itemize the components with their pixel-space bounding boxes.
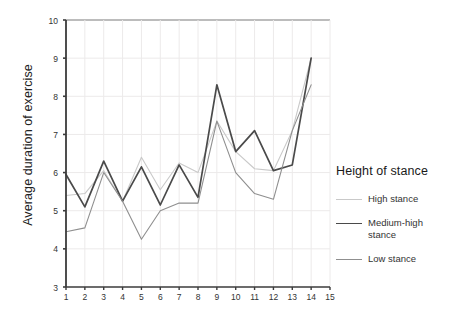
x-axis-tick-label: 2: [82, 292, 87, 302]
x-axis-tick-label: 9: [214, 292, 219, 302]
y-axis-tick-label: 3: [53, 283, 58, 293]
legend-title: Height of stance: [336, 165, 448, 179]
y-axis-title: Average duration of exercise: [21, 64, 35, 226]
x-axis-tick-label: 10: [231, 292, 241, 302]
x-axis-tick-label: 12: [269, 292, 279, 302]
x-axis-tick-label: 15: [325, 292, 335, 302]
x-axis-tick-label: 6: [158, 292, 163, 302]
y-axis-tick-label: 4: [53, 244, 58, 254]
legend-item[interactable]: High stance: [336, 193, 448, 206]
y-axis-tick-label: 9: [53, 54, 58, 64]
legend-line-swatch: [336, 199, 362, 200]
x-axis-tick-label: 5: [139, 292, 144, 302]
x-axis-tick-label: 1: [64, 292, 69, 302]
legend-item-label: High stance: [368, 193, 418, 206]
x-axis-tick-label: 7: [177, 292, 182, 302]
legend: Height of stance High stanceMedium-high …: [336, 165, 448, 277]
legend-item[interactable]: Medium-high stance: [336, 217, 448, 243]
y-axis-tick-label: 8: [53, 92, 58, 102]
legend-item[interactable]: Low stance: [336, 253, 448, 266]
legend-item-label: Medium-high stance: [368, 217, 446, 243]
line-chart: Average duration of exercise 34567891012…: [0, 0, 450, 320]
x-axis-tick-label: 11: [250, 292, 259, 302]
legend-item-label: Low stance: [368, 253, 416, 266]
x-axis-tick-label: 4: [120, 292, 125, 302]
legend-items: High stanceMedium-high stanceLow stance: [336, 193, 448, 266]
x-axis-tick-label: 8: [196, 292, 201, 302]
legend-line-swatch: [336, 223, 362, 224]
x-axis-tick-label: 14: [306, 292, 316, 302]
y-axis-tick-label: 10: [49, 16, 59, 26]
y-axis-title-container: Average duration of exercise: [14, 0, 42, 290]
legend-line-swatch: [336, 259, 362, 260]
x-axis-tick-label: 13: [288, 292, 298, 302]
series-line: [66, 58, 311, 207]
y-axis-tick-label: 5: [53, 206, 58, 216]
y-axis-tick-label: 7: [53, 130, 58, 140]
x-axis-tick-label: 3: [101, 292, 106, 302]
y-axis-tick-label: 6: [53, 168, 58, 178]
